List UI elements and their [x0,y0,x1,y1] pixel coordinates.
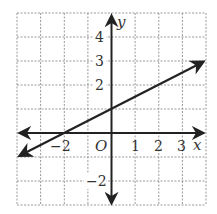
y-axis-label: y [116,13,126,31]
x-tick-neg2: −2 [50,138,71,154]
origin-label: O [95,137,107,155]
x-tick-2: 2 [154,138,163,154]
y-tick-3: 3 [95,53,104,69]
y-tick-2: 2 [95,77,104,93]
x-tick-3: 3 [177,138,186,154]
y-tick-neg2: −2 [86,173,107,189]
y-tick-4: 4 [95,29,104,45]
x-tick-1: 1 [131,138,140,154]
x-axis-label: x [193,136,202,154]
coordinate-plane: y x O 4 3 2 −2 −2 1 2 3 [0,0,217,214]
graph-svg: y x O 4 3 2 −2 −2 1 2 3 [0,0,217,214]
